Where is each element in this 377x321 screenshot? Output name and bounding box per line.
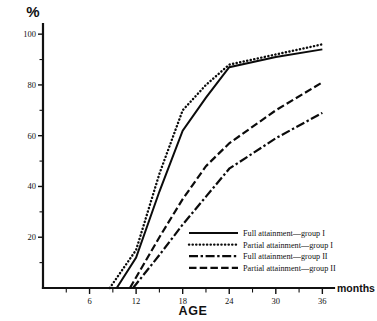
x-axis-units-label: months	[337, 282, 375, 294]
x-axis-title: AGE	[179, 304, 208, 318]
y-tick-label: 80	[28, 80, 37, 90]
y-tick-label: 60	[28, 131, 37, 141]
legend-label-1: Full attainment—group I	[243, 229, 325, 238]
chart-container: 20406080100 61218243036 % months AGE Ful…	[0, 0, 377, 321]
y-axis-tick-labels: 20406080100	[23, 29, 36, 242]
x-tick-label: 12	[132, 296, 141, 306]
x-tick-label: 24	[225, 296, 234, 306]
y-tick-label: 100	[23, 29, 36, 39]
line-chart-plot: 20406080100 61218243036 % months AGE Ful…	[0, 0, 377, 321]
x-tick-label: 30	[272, 296, 281, 306]
series-line-3	[133, 113, 322, 288]
y-tick-label: 20	[28, 232, 37, 242]
legend-label-4: Partial attainment—group II	[243, 264, 336, 273]
x-tick-label: 36	[318, 296, 327, 306]
chart-legend: Full attainment—group IPartial attainmen…	[189, 229, 336, 273]
x-tick-label: 6	[87, 296, 91, 306]
legend-label-2: Partial attainment—group I	[243, 241, 333, 250]
y-axis-unit-label: %	[26, 3, 39, 20]
y-tick-label: 40	[28, 181, 37, 191]
legend-label-3: Full attainment—group II	[243, 252, 328, 261]
